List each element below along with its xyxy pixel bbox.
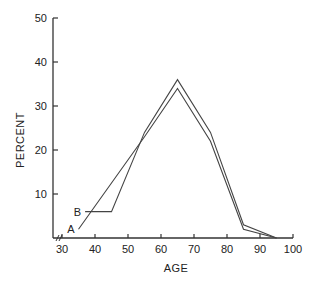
y-tick-label: 30 (35, 100, 47, 112)
series-line-b (85, 80, 276, 238)
x-axis-title: AGE (164, 262, 189, 274)
x-tick-label: 40 (89, 243, 101, 255)
y-tick-label: 20 (35, 144, 47, 156)
series-label-a: A (67, 223, 75, 235)
x-tick-label: 90 (254, 243, 266, 255)
x-tick-label: 70 (188, 243, 200, 255)
x-tick-label: 50 (122, 243, 134, 255)
y-tick-label: 10 (35, 188, 47, 200)
line-chart: 102030405030405060708090100AGEPERCENTAB (0, 0, 317, 282)
x-tick-label: 30 (56, 243, 68, 255)
series-label-b: B (74, 206, 81, 218)
x-tick-label: 100 (284, 243, 302, 255)
y-tick-label: 50 (35, 12, 47, 24)
x-tick-label: 60 (155, 243, 167, 255)
y-tick-label: 40 (35, 56, 47, 68)
series-line-a (79, 88, 277, 238)
y-axis-title: PERCENT (14, 112, 26, 168)
x-tick-label: 80 (221, 243, 233, 255)
